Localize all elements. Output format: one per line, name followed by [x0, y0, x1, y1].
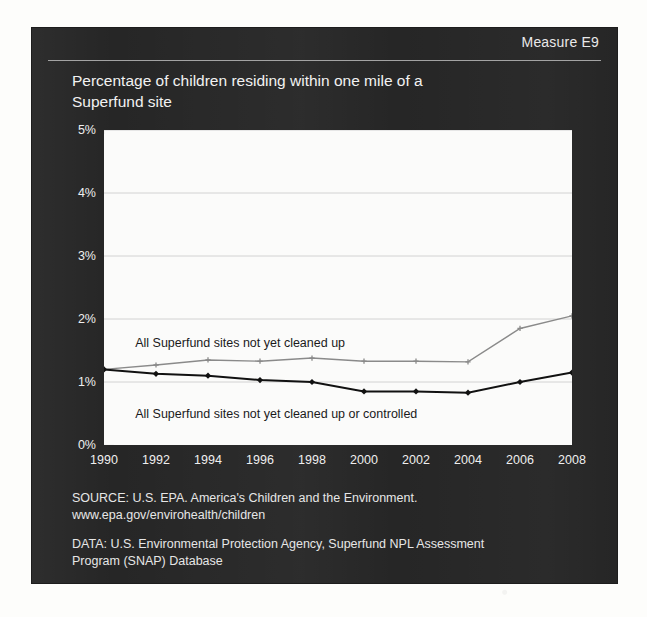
x-axis-tick-label: 2008	[558, 453, 586, 467]
series-marker-1	[205, 373, 211, 379]
source-note-line-1: SOURCE: U.S. EPA. America's Children and…	[72, 491, 417, 505]
series-marker-0	[309, 355, 314, 360]
series-marker-0	[413, 359, 418, 364]
x-axis-tick-label: 1992	[142, 453, 170, 467]
series-marker-1	[569, 369, 572, 375]
y-axis-tick-label: 3%	[78, 249, 96, 263]
x-axis-tick-label: 1990	[90, 453, 118, 467]
x-axis-tick-label: 1996	[246, 453, 274, 467]
series-marker-0	[205, 357, 210, 362]
data-note: DATA: U.S. Environmental Protection Agen…	[72, 536, 572, 570]
source-note: SOURCE: U.S. EPA. America's Children and…	[72, 490, 572, 524]
series-marker-0	[569, 313, 572, 318]
series-marker-1	[465, 390, 471, 396]
y-axis-tick-label: 2%	[78, 312, 96, 326]
series-marker-1	[104, 366, 107, 372]
measure-card-panel: Measure E9 Percentage of children residi…	[32, 28, 617, 583]
y-axis-tick-label: 5%	[78, 123, 96, 137]
data-note-line-2: Program (SNAP) Database	[72, 554, 223, 568]
series-marker-1	[309, 379, 315, 385]
series-marker-0	[361, 359, 366, 364]
series-annotation: All Superfund sites not yet cleaned up o…	[135, 407, 417, 421]
chart-title: Percentage of children residing within o…	[72, 70, 532, 112]
source-note-line-2: www.epa.gov/envirohealth/children	[72, 508, 265, 522]
series-marker-1	[517, 379, 523, 385]
header-divider	[48, 60, 601, 61]
x-axis-tick-label: 2004	[454, 453, 482, 467]
x-axis-tick-label: 1994	[194, 453, 222, 467]
measure-id-label: Measure E9	[522, 34, 599, 50]
series-annotation: All Superfund sites not yet cleaned up	[135, 336, 345, 350]
series-marker-0	[153, 362, 158, 367]
chart-title-line-2: Superfund site	[72, 93, 172, 110]
series-marker-1	[413, 388, 419, 394]
x-axis-tick-label: 2000	[350, 453, 378, 467]
series-marker-1	[153, 371, 159, 377]
x-axis-tick-label: 1998	[298, 453, 326, 467]
series-marker-1	[361, 388, 367, 394]
y-axis-tick-label: 0%	[78, 438, 96, 452]
chart-plot-wrapper: 0%1%2%3%4%5%1990199219941996199820002002…	[104, 130, 572, 445]
y-axis-tick-label: 1%	[78, 375, 96, 389]
x-axis-tick-label: 2006	[506, 453, 534, 467]
chart-svg	[104, 130, 572, 445]
chart-title-line-1: Percentage of children residing within o…	[72, 72, 423, 89]
y-axis-tick-label: 4%	[78, 186, 96, 200]
series-marker-0	[257, 359, 262, 364]
data-note-line-1: DATA: U.S. Environmental Protection Agen…	[72, 537, 484, 551]
series-line-1	[104, 369, 572, 392]
x-axis-tick-label: 2002	[402, 453, 430, 467]
